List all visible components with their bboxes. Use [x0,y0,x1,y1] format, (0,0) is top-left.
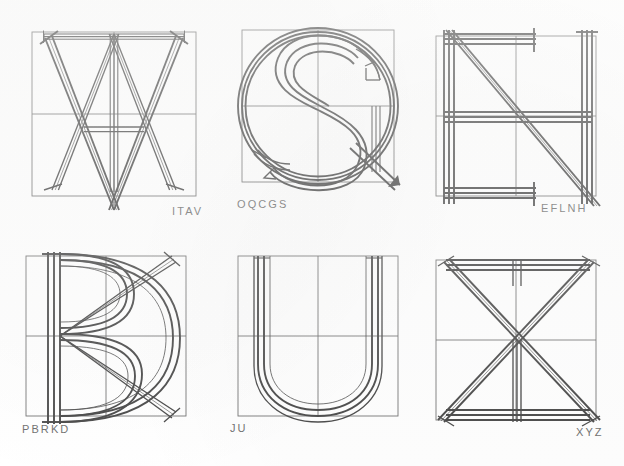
letter-K-diagonals-pbrkd [60,252,180,422]
letter-arm-bottom-eflnh [444,182,536,206]
figure-oqcgs: OQCGS [232,22,412,212]
figure-ju: JU [228,246,418,436]
figure-xyz: XYZ [424,246,624,441]
guide-grid-ju [238,256,398,416]
letter-N-diagonal-eflnh [446,30,600,206]
letter-C-oqcgs [252,150,290,170]
figure-label-pbrkd: PBRKD [22,423,70,435]
figure-itav-drawing [14,14,214,214]
letter-Z-bottombar-xyz [446,410,590,420]
letter-I-itav [110,34,118,192]
letter-X-diagonals-xyz [438,260,600,422]
figure-pbrkd: PBRKD [14,246,214,436]
figure-label-eflnh: EFLNH [541,202,588,214]
figure-label-ju: JU [230,422,248,434]
figure-eflnh: EFLNH [424,22,624,217]
figure-itav: ITAV [14,14,214,214]
letter-S-terminals-oqcgs [264,52,374,179]
figure-label-xyz: XYZ [576,426,604,438]
figure-ju-drawing [228,246,418,436]
guide-grid-pbrkd [26,256,186,416]
letterform-plate: ITAV [0,0,624,466]
figure-label-oqcgs: OQCGS [237,198,288,210]
letter-B-bowl-pbrkd [60,334,142,422]
figure-pbrkd-drawing [14,246,214,436]
figure-xyz-drawing [424,246,624,441]
figure-eflnh-drawing [424,22,624,217]
figure-label-itav: ITAV [172,205,203,217]
letter-Z-topbar-xyz [446,260,590,270]
letter-D-bowl-pbrkd [60,254,180,422]
figure-oqcgs-drawing [232,22,412,212]
